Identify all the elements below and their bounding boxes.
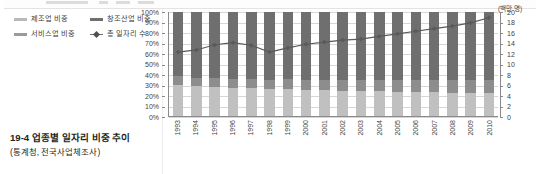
legend-swatch-manufacturing	[14, 18, 27, 21]
x-axis-tick: 1996	[223, 120, 241, 168]
total-jobs-marker	[231, 40, 236, 45]
y-axis-right-tick-label: 4	[507, 93, 511, 100]
caption-title-text: 업종별 일자리 비중 추이	[32, 132, 130, 143]
total-jobs-marker	[377, 34, 382, 39]
x-axis-tick-label: 1999	[284, 120, 291, 136]
legend-swatch-creative	[90, 18, 103, 21]
x-axis-tick: 2005	[388, 120, 406, 168]
y-axis-left-tick-label: 30%	[145, 82, 159, 89]
y-axis-right-tick-label: 20	[507, 9, 515, 16]
y-axis-right-tick-label: 14	[507, 40, 515, 47]
y-axis-right-tick-label: 2	[507, 103, 511, 110]
figure-19-4: 제조업 비중 창조산업 비중 서비스업 비중 총 일자리 수 100%90%80…	[0, 0, 540, 174]
total-jobs-marker	[249, 43, 254, 48]
x-axis-tick: 2006	[406, 120, 424, 168]
caption-source: (통계청, 전국사업체조사)	[10, 146, 160, 158]
y-axis-right-tick-label: 16	[507, 30, 515, 37]
caption-number: 19-4	[10, 132, 29, 143]
y-axis-left-tick	[162, 117, 165, 118]
y-axis-left-tick-label: 40%	[145, 72, 159, 79]
y-axis-right-tick-label: 18	[507, 19, 515, 26]
total-jobs-marker	[176, 50, 181, 55]
x-axis-tick-label: 2005	[394, 120, 401, 136]
y-axis-right-tick-label: 12	[507, 51, 515, 58]
y-axis-left-tick-label: 80%	[145, 30, 159, 37]
x-axis-tick: 2002	[333, 120, 351, 168]
page-top-rule	[4, 0, 536, 9]
total-jobs-marker	[395, 31, 400, 36]
legend-swatch-service	[14, 33, 27, 36]
x-axis-tick-label: 2006	[412, 120, 419, 136]
x-axis-tick-label: 2000	[302, 120, 309, 136]
x-axis-tick: 2009	[461, 120, 479, 168]
x-axis-tick: 2003	[351, 120, 369, 168]
y-axis-left-tick	[162, 75, 165, 76]
total-jobs-marker	[322, 40, 327, 45]
total-jobs-marker	[486, 15, 491, 20]
legend-label-manufacturing: 제조업 비중	[31, 15, 68, 23]
x-axis-tick: 2004	[370, 120, 388, 168]
y-axis-left-tick-label: 20%	[145, 93, 159, 100]
x-axis-tick: 2008	[443, 120, 461, 168]
total-jobs-line	[169, 12, 498, 116]
x-axis-tick: 2000	[296, 120, 314, 168]
x-axis-tick-label: 2007	[430, 120, 437, 136]
gridline	[169, 117, 498, 118]
x-axis-tick: 2010	[480, 120, 498, 168]
legend-line-marker-icon	[90, 31, 103, 38]
y-axis-right-tick-label: 0	[507, 114, 511, 121]
y-axis-left-tick	[162, 65, 165, 66]
y-axis-left-tick	[162, 96, 165, 97]
x-axis-labels: 1993199419951996199719981999200020012002…	[168, 120, 498, 168]
y-axis-left-tick-label: 60%	[145, 51, 159, 58]
y-axis-left: 100%90%80%70%60%50%40%30%20%10%0%	[136, 12, 165, 117]
x-axis-tick: 1999	[278, 120, 296, 168]
x-axis-tick-label: 2004	[375, 120, 382, 136]
y-axis-right-line	[500, 12, 501, 117]
y-axis-right-tick-label: 8	[507, 72, 511, 79]
x-axis-tick: 1997	[241, 120, 259, 168]
legend-item-manufacturing: 제조업 비중	[14, 15, 68, 23]
x-axis-tick: 1998	[260, 120, 278, 168]
figure-caption: 19-4업종별 일자리 비중 추이 (통계청, 전국사업체조사)	[10, 131, 160, 158]
x-axis-tick-label: 2002	[339, 120, 346, 136]
total-jobs-marker	[304, 42, 309, 47]
total-jobs-marker	[212, 42, 217, 47]
x-axis-tick-label: 1996	[229, 120, 236, 136]
y-axis-left-tick-label: 90%	[145, 19, 159, 26]
total-jobs-marker	[359, 37, 364, 42]
total-jobs-marker	[194, 48, 199, 53]
total-jobs-marker	[432, 26, 437, 31]
legend-item-service: 서비스업 비중	[14, 30, 75, 38]
total-jobs-marker	[450, 24, 455, 29]
y-axis-left-tick	[162, 54, 165, 55]
total-jobs-polyline	[178, 18, 489, 52]
y-axis-right-tick-label: 6	[507, 82, 511, 89]
x-axis-tick: 2001	[315, 120, 333, 168]
x-axis-tick-label: 1997	[247, 120, 254, 136]
total-jobs-marker	[413, 29, 418, 34]
plot-area	[168, 12, 498, 117]
x-axis-tick-label: 2003	[357, 120, 364, 136]
x-axis-tick-label: 1998	[265, 120, 272, 136]
plot-frame	[168, 12, 498, 117]
x-axis-tick-label: 2001	[320, 120, 327, 136]
y-axis-left-tick	[162, 12, 165, 13]
x-axis-tick-label: 2010	[485, 120, 492, 136]
y-axis-left-tick-label: 10%	[145, 103, 159, 110]
x-axis-tick-label: 1994	[192, 120, 199, 136]
x-axis-tick-label: 1993	[174, 120, 181, 136]
y-axis-left-tick	[162, 33, 165, 34]
x-axis-tick: 1994	[186, 120, 204, 168]
total-jobs-marker	[285, 45, 290, 50]
total-jobs-marker	[468, 21, 473, 26]
y-axis-right: 20181614121086420	[500, 12, 530, 117]
x-axis-tick: 1993	[168, 120, 186, 168]
y-axis-left-tick	[162, 107, 165, 108]
total-jobs-marker	[340, 38, 345, 43]
y-axis-left-tick	[162, 86, 165, 87]
y-axis-left-tick-label: 100%	[141, 9, 159, 16]
y-axis-left-tick	[162, 23, 165, 24]
x-axis-tick-label: 2008	[449, 120, 456, 136]
x-axis-tick: 2007	[425, 120, 443, 168]
